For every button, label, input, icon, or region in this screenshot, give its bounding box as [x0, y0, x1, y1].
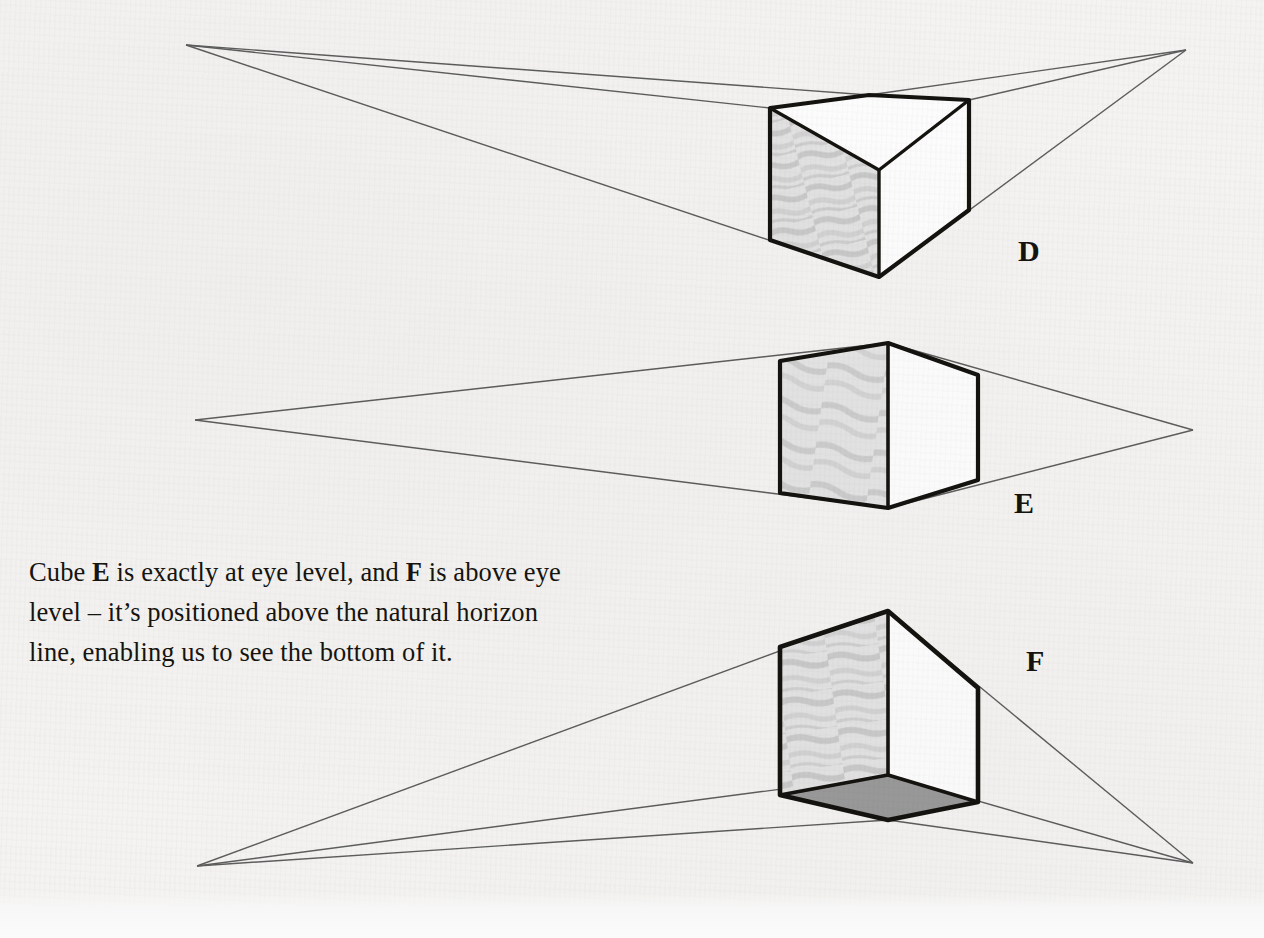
- caption-text: Cube: [29, 557, 92, 587]
- guide-line: [869, 50, 1186, 95]
- caption-cube-f-ref: F: [406, 557, 422, 587]
- guide-line: [969, 50, 1186, 100]
- guide-line: [197, 820, 888, 866]
- caption-cube-e-ref: E: [92, 557, 110, 587]
- cube-e-perspective-guides: [195, 343, 1193, 508]
- cube-e-group: [195, 343, 1193, 508]
- guide-line: [186, 45, 770, 108]
- caption-line-1: Cube E is exactly at eye level, and F is…: [29, 557, 561, 587]
- caption-text: is above eye: [422, 557, 561, 587]
- scanned-book-page: D E F Cube E is exactly at eye level, an…: [0, 0, 1264, 938]
- caption-text: is exactly at eye level, and: [110, 557, 406, 587]
- perspective-cubes-figure: [0, 0, 1264, 938]
- cube-label-f: F: [1026, 646, 1045, 676]
- cube-f-right-lit-face: [888, 611, 978, 802]
- cube-e-left-shaded-face: [780, 343, 888, 508]
- guide-line: [186, 45, 869, 95]
- figure-caption: Cube E is exactly at eye level, and F is…: [29, 552, 669, 672]
- guide-line: [888, 820, 1193, 863]
- caption-line-3: line, enabling us to see the bottom of i…: [29, 637, 453, 667]
- cube-f-left-shaded-face: [780, 611, 888, 795]
- cube-label-d: D: [1018, 236, 1040, 266]
- caption-line-2: level – it’s positioned above the natura…: [29, 597, 538, 627]
- cube-label-e: E: [1014, 488, 1035, 518]
